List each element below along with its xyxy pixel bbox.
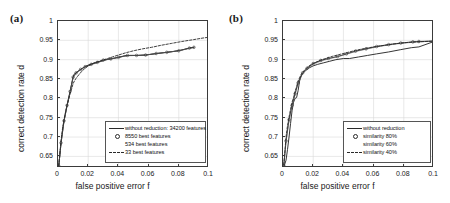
figure-roc-comparison: (a) 0.650.70.750.80.850.90.951 00.020.04… [0, 0, 450, 203]
y-tick-label: 0.9 [27, 55, 53, 62]
y-tick-mark [57, 59, 60, 60]
x-tick-mark [342, 164, 343, 167]
legend-circle-marker-icon [346, 132, 363, 140]
x-tick-mark [148, 164, 149, 167]
x-tick-mark [178, 164, 179, 167]
legend-item: without reduction [346, 124, 427, 132]
x-tick-label: 0.02 [305, 170, 319, 177]
legend-item: similarity 80% [346, 132, 427, 140]
x-tick-label: 0.04 [336, 170, 350, 177]
y-tick-label: 0.7 [252, 133, 278, 140]
x-tick-label: 0.08 [396, 170, 410, 177]
y-tick-label: 0.8 [252, 94, 278, 101]
y-tick-mark [57, 97, 60, 98]
x-tick-label: 0 [55, 170, 59, 177]
panel-a: (a) 0.650.70.750.80.850.90.951 00.020.04… [0, 0, 225, 203]
y-tick-mark [282, 78, 285, 79]
y-tick-mark [282, 39, 285, 40]
x-tick-label: 0.1 [203, 170, 213, 177]
legend-item-label: 8550 best features [125, 132, 170, 140]
legend-item: 8550 best features [108, 132, 202, 140]
panel-b-y-axis-label: correct detection rate d [241, 65, 251, 152]
x-tick-label: 0.04 [111, 170, 125, 177]
panel-a-y-axis-label: correct detection rate d [16, 65, 26, 152]
x-tick-mark [117, 164, 118, 167]
y-tick-label: 0.9 [252, 55, 278, 62]
legend-item-label: similarity 80% [363, 132, 397, 140]
x-tick-mark [312, 164, 313, 167]
legend-item-label: without reduction [363, 124, 404, 132]
y-tick-label: 1 [252, 17, 278, 24]
legend-item: similarity 40% [346, 148, 427, 156]
legend-item: 33 best features [108, 148, 202, 156]
legend-item: without reduction: 34200 features [108, 124, 202, 132]
y-tick-label: 0.95 [27, 36, 53, 43]
legend-item-label: similarity 60% [363, 140, 397, 148]
y-tick-mark [282, 155, 285, 156]
y-tick-mark [57, 39, 60, 40]
legend-dashed-line-icon [346, 148, 363, 156]
y-tick-label: 0.7 [27, 133, 53, 140]
y-tick-label: 0.8 [27, 94, 53, 101]
panel-b-legend: without reductionsimilarity 80%similarit… [343, 121, 431, 163]
legend-item-label: without reduction: 34200 features [125, 124, 206, 132]
legend-blank-icon [108, 140, 125, 148]
x-tick-mark [373, 164, 374, 167]
legend-blank-icon [346, 140, 363, 148]
y-tick-label: 0.85 [252, 75, 278, 82]
legend-item-label: 33 best features [125, 148, 164, 156]
panel-b: (b) 0.650.70.750.80.850.90.951 00.020.04… [225, 0, 450, 203]
x-tick-label: 0.02 [80, 170, 94, 177]
y-tick-mark [282, 97, 285, 98]
panel-a-label: (a) [10, 12, 23, 24]
x-tick-mark [87, 164, 88, 167]
legend-item: 534 best features [108, 140, 202, 148]
panel-b-x-axis-label: false positive error f [225, 181, 450, 191]
x-tick-label: 0.1 [428, 170, 438, 177]
y-tick-mark [282, 59, 285, 60]
y-tick-label: 0.75 [252, 113, 278, 120]
legend-dashed-line-icon [108, 148, 125, 156]
y-tick-label: 0.95 [252, 36, 278, 43]
legend-solid-line-icon [108, 124, 125, 132]
legend-item-label: 534 best features [125, 140, 167, 148]
y-tick-mark [57, 78, 60, 79]
y-tick-mark [57, 155, 60, 156]
y-tick-mark [57, 136, 60, 137]
y-tick-mark [282, 136, 285, 137]
x-tick-label: 0.06 [141, 170, 155, 177]
panel-b-label: (b) [229, 12, 243, 24]
y-tick-label: 0.85 [27, 75, 53, 82]
legend-solid-line-icon [346, 124, 363, 132]
y-tick-mark [282, 117, 285, 118]
x-tick-mark [403, 164, 404, 167]
y-tick-label: 1 [27, 17, 53, 24]
y-tick-label: 0.65 [27, 152, 53, 159]
panel-a-legend: without reduction: 34200 features8550 be… [105, 121, 206, 163]
y-tick-label: 0.75 [27, 113, 53, 120]
y-tick-mark [57, 117, 60, 118]
x-tick-label: 0.08 [171, 170, 185, 177]
panel-a-x-axis-label: false positive error f [0, 181, 225, 191]
legend-circle-marker-icon [108, 132, 125, 140]
y-tick-label: 0.65 [252, 152, 278, 159]
legend-item: similarity 60% [346, 140, 427, 148]
x-tick-label: 0.06 [366, 170, 380, 177]
x-tick-label: 0 [280, 170, 284, 177]
legend-item-label: similarity 40% [363, 148, 397, 156]
